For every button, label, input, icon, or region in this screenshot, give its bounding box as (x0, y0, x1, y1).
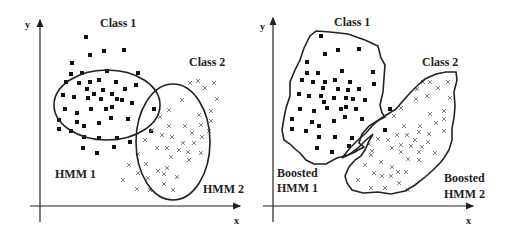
y-axis-label: y (260, 21, 265, 32)
hmm1-label: HMM 1 (55, 167, 96, 181)
left-panel: y x Class 1 Class 2 HMM 1 HMM 2 (25, 16, 244, 226)
hmm2-boundary (136, 84, 210, 200)
right-panel: y x Class 1 Class 2 Boosted HMM 1 Booste… (260, 15, 485, 226)
class2-label: Class 2 (422, 55, 458, 69)
class1-points (57, 35, 156, 155)
x-axis-label: x (466, 215, 471, 226)
class1-label: Class 1 (100, 16, 136, 30)
boosted-hmm1-label-line1: Boosted (277, 166, 318, 180)
boosted-hmm2-label-line1: Boosted (444, 171, 485, 185)
hmm-boosting-diagram: y x Class 1 Class 2 HMM 1 HMM 2 (0, 0, 513, 239)
class1-label: Class 1 (334, 15, 370, 29)
x-axis-label: x (234, 215, 239, 226)
hmm2-label: HMM 2 (203, 182, 244, 196)
boosted-hmm1-label-line2: HMM 1 (277, 181, 318, 195)
y-axis-label: y (25, 19, 30, 30)
boosted-hmm2-label-line2: HMM 2 (444, 187, 485, 201)
class1-points (290, 34, 392, 154)
class2-label: Class 2 (189, 55, 225, 69)
